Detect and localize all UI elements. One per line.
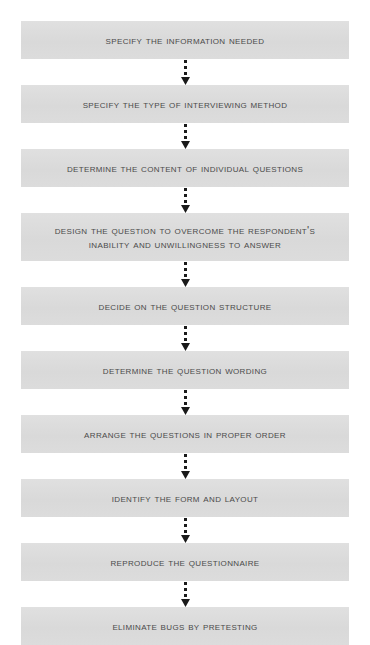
flowchart-step-5: Decide on the Question Structure: [21, 287, 349, 325]
flow-connector-arrow: [21, 389, 349, 415]
step-label: Specify the Information Needed: [106, 33, 265, 47]
flow-connector-arrow: [21, 59, 349, 85]
step-label: Specify the Type of Interviewing Method: [83, 97, 288, 111]
flow-connector-arrow: [21, 517, 349, 543]
flow-connector-arrow: [21, 325, 349, 351]
step-label: Design the Question to Overcome the Resp…: [55, 223, 316, 251]
flowchart-step-10: Eliminate Bugs by Pretesting: [21, 607, 349, 645]
flowchart-step-9: Reproduce the Questionnaire: [21, 543, 349, 581]
step-label: Reproduce the Questionnaire: [110, 555, 259, 569]
step-label: Identify the Form and Layout: [112, 491, 259, 505]
step-label: Determine the Question Wording: [103, 363, 267, 377]
flowchart-step-3: Determine the Content of Individual Ques…: [21, 149, 349, 187]
flow-connector-arrow: [21, 453, 349, 479]
flow-connector-arrow: [21, 187, 349, 213]
flow-connector-arrow: [21, 123, 349, 149]
flowchart-step-4: Design the Question to Overcome the Resp…: [21, 213, 349, 261]
step-label: Determine the Content of Individual Ques…: [67, 161, 303, 175]
step-label: Decide on the Question Structure: [99, 299, 272, 313]
flowchart-step-2: Specify the Type of Interviewing Method: [21, 85, 349, 123]
flow-connector-arrow: [21, 261, 349, 287]
flowchart-step-7: Arrange the Questions in Proper Order: [21, 415, 349, 453]
flowchart-step-1: Specify the Information Needed: [21, 21, 349, 59]
flowchart-steps-container: Specify the Information Needed Specify t…: [21, 21, 349, 645]
flowchart-step-8: Identify the Form and Layout: [21, 479, 349, 517]
flowchart-step-6: Determine the Question Wording: [21, 351, 349, 389]
step-label: Eliminate Bugs by Pretesting: [112, 619, 257, 633]
flow-connector-arrow: [21, 581, 349, 607]
step-label: Arrange the Questions in Proper Order: [84, 427, 286, 441]
